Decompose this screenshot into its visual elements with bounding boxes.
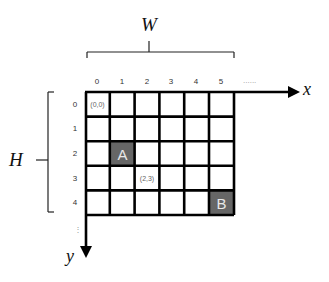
column-index: 4 — [194, 77, 199, 86]
row-index: 0 — [73, 100, 78, 109]
column-index: 2 — [145, 77, 150, 86]
width-brace — [87, 41, 234, 58]
column-index: 3 — [169, 77, 174, 86]
y-axis-label: y — [64, 246, 74, 266]
row-index: 2 — [73, 149, 78, 158]
column-index: 0 — [95, 77, 100, 86]
cell-a-label: A — [117, 146, 127, 163]
height-brace — [36, 92, 54, 212]
height-label: H — [8, 149, 24, 170]
row-index: 3 — [73, 174, 78, 183]
y-axis-arrow-icon — [80, 246, 92, 258]
row-index: 4 — [73, 198, 78, 207]
column-ellipsis: ...... — [243, 76, 256, 85]
row-ellipsis: ⋮ — [74, 225, 82, 234]
row-index: 1 — [73, 124, 78, 133]
x-axis-arrow-icon — [288, 86, 300, 98]
sample-coordinate: (2,3) — [140, 175, 154, 183]
grid-coordinate-diagram: W 0 1 2 3 4 5 ...... H 0 1 2 3 4 A B — [0, 0, 329, 282]
cell-b-label: B — [217, 195, 227, 212]
width-label: W — [141, 14, 159, 35]
x-axis — [85, 86, 300, 98]
x-axis-label: x — [302, 79, 311, 99]
column-indices: 0 1 2 3 4 5 ...... — [95, 76, 257, 86]
origin-coordinate: (0,0) — [90, 101, 104, 109]
column-index: 5 — [219, 77, 224, 86]
column-index: 1 — [120, 77, 125, 86]
row-indices: 0 1 2 3 4 — [73, 100, 78, 207]
